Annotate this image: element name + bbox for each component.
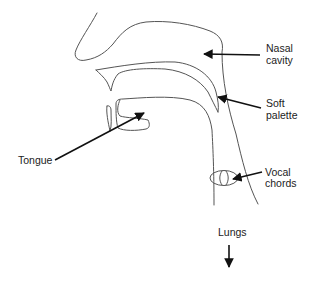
lungs-label: Lungs [218, 226, 247, 238]
tongue-arrow [55, 113, 144, 160]
vocal-chords-label: Vocal chords [265, 166, 297, 189]
nasal-cavity-arrow [204, 54, 260, 55]
palate-lower [96, 69, 218, 112]
tongue-label: Tongue [18, 154, 53, 166]
soft-palette-arrow [218, 97, 261, 108]
tongue-outline [116, 97, 214, 205]
nasal-cavity-label: Nasal cavity [266, 42, 296, 66]
soft-palette-label: Soft palette [266, 97, 298, 121]
vocal-chords-fold [220, 171, 229, 185]
vocal-tract-diagram: Nasal cavity Soft palette Tongue Vocal c… [0, 0, 313, 285]
nose-outline [75, 13, 258, 204]
lip-outline [107, 106, 112, 131]
